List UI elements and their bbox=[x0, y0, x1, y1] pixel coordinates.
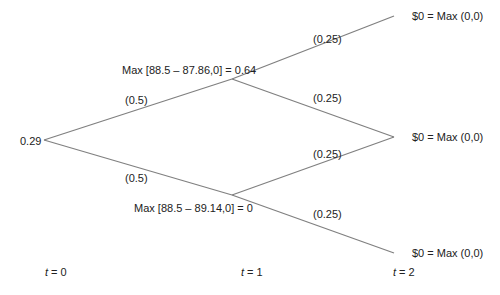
t1-lower-node-label: Max [88.5 – 89.14,0] = 0 bbox=[134, 202, 253, 214]
t2-mid-node-label: $0 = Max (0,0) bbox=[412, 131, 483, 143]
prob-up-up: (0.25) bbox=[313, 33, 342, 45]
t1-upper-node-label: Max [88.5 – 87.86,0] = 0.64 bbox=[122, 64, 256, 76]
edge-up-down bbox=[232, 79, 394, 137]
t2-bottom-node-label: $0 = Max (0,0) bbox=[412, 247, 483, 259]
edge-up-up bbox=[232, 16, 394, 79]
time-value: = 1 bbox=[244, 266, 263, 278]
edge-down-down bbox=[232, 195, 394, 253]
root-node-value: 0.29 bbox=[20, 135, 41, 147]
time-label-t1: t = 1 bbox=[241, 266, 263, 278]
t2-top-node-label: $0 = Max (0,0) bbox=[412, 10, 483, 22]
prob-up-down: (0.25) bbox=[313, 92, 342, 104]
time-value: = 2 bbox=[396, 266, 415, 278]
prob-down-up: (0.25) bbox=[313, 148, 342, 160]
edge-root-down bbox=[44, 140, 232, 195]
edge-root-up bbox=[44, 79, 232, 140]
edge-down-up bbox=[232, 137, 394, 195]
time-label-t0: t = 0 bbox=[45, 266, 67, 278]
prob-down-down: (0.25) bbox=[313, 208, 342, 220]
prob-root-up: (0.5) bbox=[125, 94, 148, 106]
time-value: = 0 bbox=[48, 266, 67, 278]
time-label-t2: t = 2 bbox=[393, 266, 415, 278]
prob-root-down: (0.5) bbox=[125, 172, 148, 184]
